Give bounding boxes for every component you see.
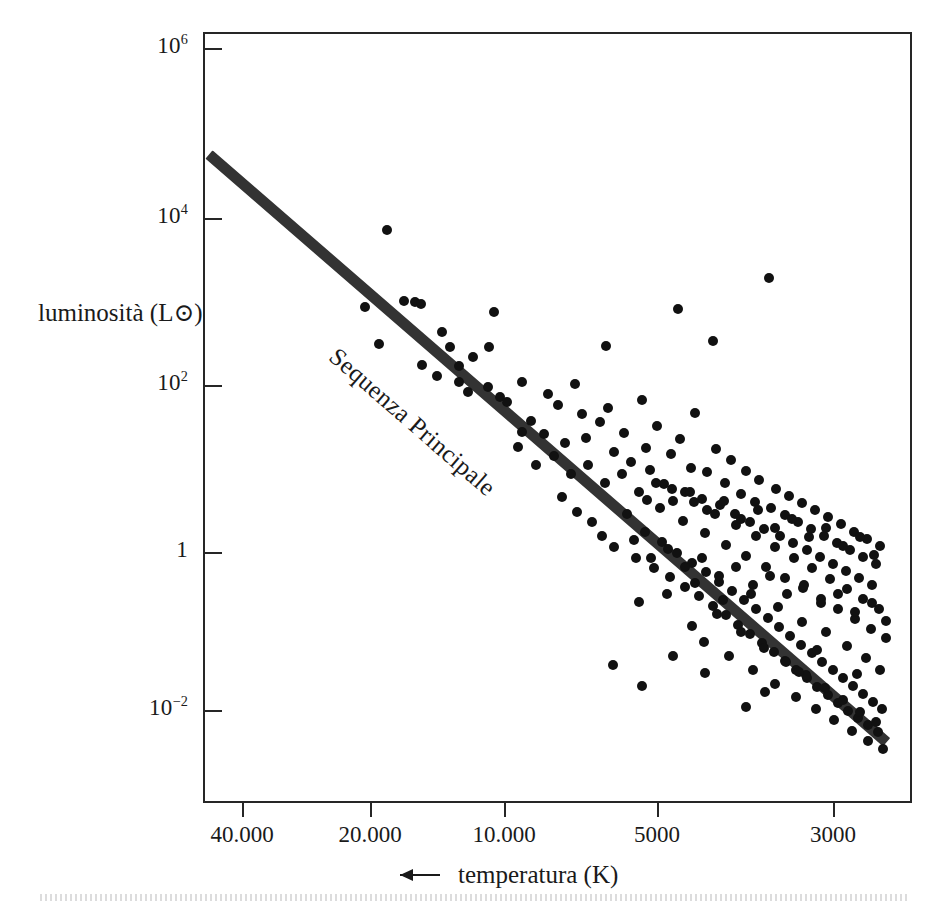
y-tick-mark — [203, 48, 222, 50]
scatter-point — [609, 542, 619, 552]
x-tick-mark — [370, 803, 372, 817]
scatter-point — [708, 336, 718, 346]
scatter-point — [531, 460, 541, 470]
scatter-point — [875, 665, 885, 675]
scatter-point — [702, 467, 712, 477]
y-tick-mark — [203, 218, 222, 220]
scatter-point — [766, 503, 776, 513]
scatter-point — [601, 341, 611, 351]
scatter-point — [690, 578, 700, 588]
scatter-point — [454, 377, 464, 387]
scatter-point — [645, 465, 655, 475]
scatter-point — [785, 631, 795, 641]
scatter-point — [702, 505, 712, 515]
scatter-point — [637, 395, 647, 405]
scatter-point — [759, 524, 769, 534]
scatter-point — [700, 528, 710, 538]
scatter-point — [811, 704, 821, 714]
scatter-point — [848, 681, 858, 691]
scatter-point — [678, 516, 688, 526]
scatter-point — [816, 598, 826, 608]
scatter-point — [782, 589, 792, 599]
plot-area: Sequenza Principale — [205, 34, 910, 801]
scatter-point — [825, 574, 835, 584]
scatter-point — [748, 580, 758, 590]
scatter-point — [652, 421, 662, 431]
scatter-point — [753, 505, 763, 515]
scatter-point — [720, 478, 730, 488]
scatter-point — [741, 702, 751, 712]
scatter-point — [437, 327, 447, 337]
x-tick-mark — [833, 803, 835, 817]
scatter-point — [821, 523, 831, 533]
scatter-point — [781, 657, 791, 667]
scatter-point — [867, 598, 877, 608]
scatter-point — [774, 622, 784, 632]
scatter-point — [587, 517, 597, 527]
scatter-point — [595, 417, 605, 427]
scatter-point — [881, 616, 891, 626]
y-tick-label: 106 — [0, 34, 200, 57]
x-tick-label: 10.000 — [434, 823, 574, 846]
scatter-point — [741, 466, 751, 476]
scatter-point — [869, 550, 879, 560]
scatter-point — [858, 552, 868, 562]
scatter-point — [417, 360, 427, 370]
scatter-point — [812, 645, 822, 655]
scatter-point — [748, 665, 758, 675]
scatter-point — [640, 527, 650, 537]
scatter-point — [668, 496, 678, 506]
scatter-point — [833, 589, 843, 599]
scatter-point — [581, 433, 591, 443]
scatter-point — [724, 651, 734, 661]
scatter-point — [763, 613, 773, 623]
scatter-point — [665, 572, 675, 582]
scatter-point — [823, 512, 833, 522]
scatter-point — [699, 637, 709, 647]
x-tick-label: 40.000 — [172, 823, 312, 846]
scatter-point — [517, 377, 527, 387]
scatter-point — [642, 495, 652, 505]
scatter-point — [712, 609, 722, 619]
scatter-point — [841, 566, 851, 576]
scatter-point — [866, 624, 876, 634]
scatter-point — [649, 563, 659, 573]
scatter-point — [667, 484, 677, 494]
scatter-point — [641, 443, 651, 453]
scatter-point — [802, 545, 812, 555]
scatter-point — [863, 736, 873, 746]
scatter-point — [787, 514, 797, 524]
scatter-point — [711, 444, 721, 454]
scatter-point — [629, 535, 639, 545]
scatter-point — [382, 225, 392, 235]
scatter-point — [881, 633, 891, 643]
scatter-point — [583, 460, 593, 470]
scatter-point — [543, 389, 553, 399]
scatter-point — [566, 469, 576, 479]
scatter-point — [828, 665, 838, 675]
scatter-point — [873, 727, 883, 737]
scatter-point — [788, 538, 798, 548]
scatter-point — [553, 400, 563, 410]
scatter-point — [875, 541, 885, 551]
scatter-point — [626, 457, 636, 467]
scatter-point — [651, 478, 661, 488]
scatter-point — [828, 559, 838, 569]
x-tick-mark — [504, 803, 506, 817]
scatter-point — [804, 532, 814, 542]
scatter-point — [829, 715, 839, 725]
scatter-point — [697, 553, 707, 563]
scatter-point — [468, 352, 478, 362]
scatter-point — [622, 509, 632, 519]
scatter-point — [721, 610, 731, 620]
scatter-point — [736, 514, 746, 524]
scatter-point — [600, 478, 610, 488]
scatter-point — [878, 744, 888, 754]
scatter-point — [797, 498, 807, 508]
scatter-point — [815, 552, 825, 562]
scatter-point — [619, 428, 629, 438]
scatter-point — [597, 531, 607, 541]
scatter-point — [736, 627, 746, 637]
left-arrow-icon — [400, 866, 440, 884]
y-tick-label: 1 — [0, 538, 200, 561]
